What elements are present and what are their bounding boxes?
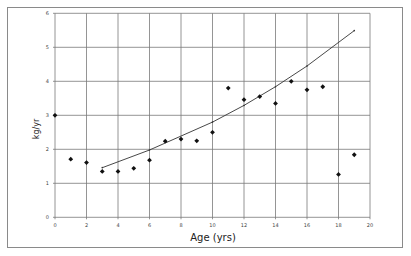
data-point-marker <box>273 101 278 106</box>
data-points <box>53 79 357 177</box>
data-point-marker <box>320 84 325 89</box>
data-point-marker <box>68 157 73 162</box>
y-tick-label: 3 <box>46 112 49 118</box>
data-point-marker <box>210 130 215 135</box>
x-axis-ticks: 02468101214161820 <box>53 222 373 228</box>
x-tick-label: 12 <box>241 222 247 228</box>
x-tick-label: 8 <box>179 222 182 228</box>
x-tick-label: 2 <box>85 222 88 228</box>
data-point-marker <box>179 137 184 142</box>
data-point-marker <box>131 166 136 171</box>
data-point-marker <box>242 97 247 102</box>
y-tick-label: 0 <box>46 214 49 220</box>
data-point-marker <box>147 158 152 163</box>
y-axis-label: kg/yr <box>32 118 41 139</box>
x-tick-label: 16 <box>304 222 310 228</box>
y-tick-label: 1 <box>46 180 49 186</box>
x-tick-label: 20 <box>367 222 373 228</box>
data-point-marker <box>53 113 58 118</box>
y-axis-ticks: 0123456 <box>46 10 49 220</box>
data-point-marker <box>84 160 89 165</box>
y-tick-label: 4 <box>46 78 49 84</box>
x-tick-label: 10 <box>209 222 215 228</box>
x-axis-label: Age (yrs) <box>190 232 236 243</box>
y-tick-label: 2 <box>46 146 49 152</box>
x-tick-label: 6 <box>148 222 151 228</box>
data-point-marker <box>305 87 310 92</box>
data-point-marker <box>100 169 105 174</box>
x-tick-label: 4 <box>116 222 119 228</box>
scatter-chart: 0123456 02468101214161820 Age (yrs) kg/y… <box>0 0 411 256</box>
data-point-marker <box>289 79 294 84</box>
x-tick-label: 14 <box>272 222 278 228</box>
data-point-marker <box>163 139 168 144</box>
data-point-marker <box>336 172 341 177</box>
data-point-marker <box>226 86 231 91</box>
trend-line <box>101 30 355 169</box>
y-tick-label: 6 <box>46 10 49 16</box>
data-point-marker <box>116 169 121 174</box>
grid-lines <box>53 13 370 219</box>
data-point-marker <box>194 138 199 143</box>
x-tick-label: 0 <box>53 222 56 228</box>
data-point-marker <box>352 152 357 157</box>
x-tick-label: 18 <box>335 222 341 228</box>
y-tick-label: 5 <box>46 44 49 50</box>
